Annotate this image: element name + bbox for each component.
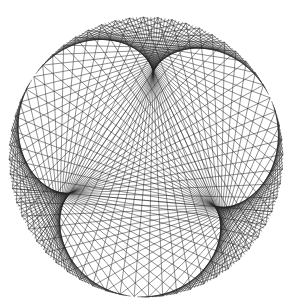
chord-path [9, 17, 283, 297]
string-art-figure [0, 0, 288, 302]
chord-lines [9, 17, 283, 297]
